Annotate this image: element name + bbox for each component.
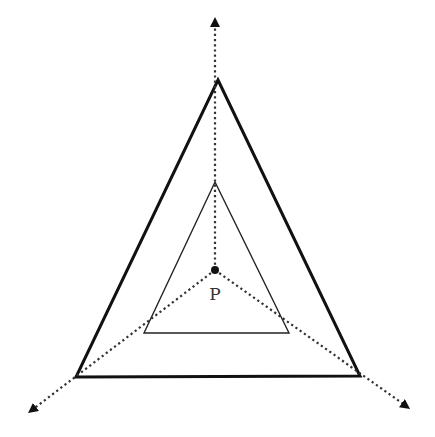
ray-down-right xyxy=(215,270,406,406)
triangle-diagram: P xyxy=(0,0,435,437)
center-point-label: P xyxy=(209,284,220,304)
ray-down-left xyxy=(32,270,215,410)
center-point-p xyxy=(211,266,219,274)
inner-triangle xyxy=(144,182,289,333)
